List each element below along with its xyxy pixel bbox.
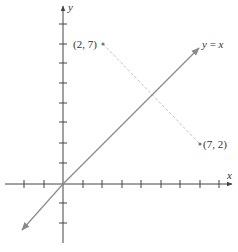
y-axis: y: [59, 1, 73, 243]
coordinate-plane-diagram: x y y = x (2, 7) (7, 2): [0, 0, 238, 252]
point-7-2: (7, 2): [198, 138, 227, 151]
line-y-equals-x: [22, 48, 199, 230]
line-label-rhs: x: [218, 38, 224, 50]
x-axis: x: [5, 169, 232, 188]
y-axis-label: y: [67, 1, 73, 13]
line-label-op: =: [207, 38, 219, 50]
x-axis-label: x: [226, 169, 232, 181]
point-label-2-7: (2, 7): [73, 38, 97, 51]
line-label: y = x: [201, 38, 224, 50]
point-label-7-2: (7, 2): [203, 138, 227, 151]
point-2-7: (2, 7): [73, 38, 105, 51]
